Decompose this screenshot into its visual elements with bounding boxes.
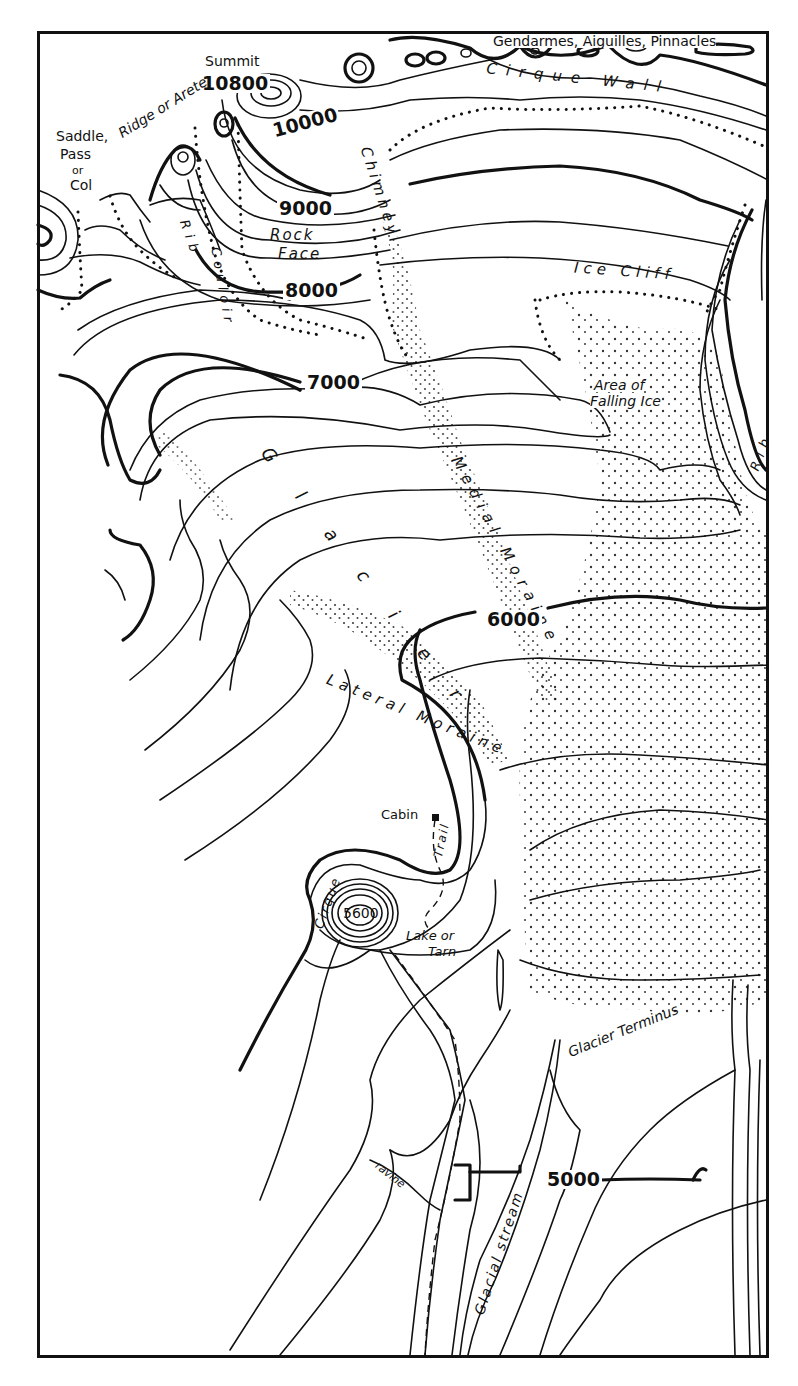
saddle-label: Saddle,	[56, 129, 108, 143]
knob-elevation-label: 5600	[343, 906, 379, 920]
lake-label-line1: Lake or	[406, 929, 454, 942]
pass-label: Pass	[60, 147, 91, 161]
or-label: or	[72, 165, 83, 176]
lake-label-line2: Tarn	[428, 945, 456, 958]
rock-label: Rock	[270, 228, 315, 243]
gendarmes-label: Gendarmes, Aiguilles, Pinnacles	[493, 34, 716, 48]
cabin-icon	[432, 814, 439, 821]
contour-8000-label: 8000	[283, 281, 340, 300]
summit-label: Summit	[205, 54, 259, 68]
face-label: Face	[278, 247, 321, 262]
falling-ice-label-line1: Area of	[594, 378, 644, 392]
col-label: Col	[70, 178, 92, 192]
falling-ice-label-line2: Falling Ice	[590, 394, 661, 408]
summit-elevation-label: 10800	[200, 74, 270, 93]
contour-6000-label: 6000	[485, 610, 542, 629]
contour-9000-label: 9000	[277, 199, 334, 218]
cabin-label: Cabin	[381, 808, 418, 821]
contour-7000-label: 7000	[305, 373, 362, 392]
contour-5000-label: 5000	[545, 1170, 602, 1189]
